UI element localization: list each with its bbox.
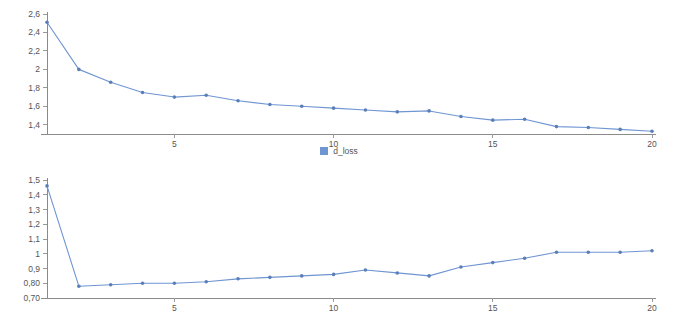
series-line-g_loss <box>47 186 652 286</box>
d-loss-plot-area: 1,41,61,822,22,42,65101520 <box>0 0 678 163</box>
data-point <box>555 125 559 129</box>
data-point <box>491 261 495 265</box>
x-tick-label: 5 <box>172 303 177 313</box>
y-tick-label: 2,4 <box>28 27 40 37</box>
y-tick-label: 1,6 <box>28 101 40 111</box>
data-point <box>268 103 272 107</box>
x-tick-label: 15 <box>488 303 498 313</box>
chart-g-loss: 0,700,800,911,11,21,31,41,55101520 g_los… <box>0 163 678 327</box>
g-loss-plot-area: 0,700,800,911,11,21,31,41,55101520 <box>0 163 678 327</box>
y-tick-label: 1,8 <box>28 83 40 93</box>
y-tick-label: 0,70 <box>23 293 40 303</box>
y-tick-label: 2,6 <box>28 9 40 19</box>
data-point <box>332 106 336 110</box>
y-tick-label: 1,4 <box>28 120 40 130</box>
y-tick-label: 0,9 <box>28 264 40 274</box>
legend-swatch-d-loss <box>320 147 328 155</box>
data-point <box>523 256 527 260</box>
data-point <box>268 276 272 280</box>
data-point <box>45 21 49 25</box>
data-point <box>332 273 336 277</box>
y-tick-label: 2,2 <box>28 46 40 56</box>
data-point <box>236 99 240 103</box>
data-point <box>300 105 304 109</box>
data-point <box>109 283 113 287</box>
data-point <box>300 274 304 278</box>
data-point <box>364 108 368 112</box>
y-tick-label: 1,5 <box>28 175 40 185</box>
data-point <box>204 280 208 284</box>
series-line-d_loss <box>47 22 652 131</box>
data-point <box>523 117 527 121</box>
data-point <box>395 110 399 114</box>
y-tick-label: 1,1 <box>28 234 40 244</box>
chart-d-loss: 1,41,61,822,22,42,65101520 d_loss <box>0 0 678 163</box>
data-point <box>650 249 654 253</box>
data-point <box>491 118 495 122</box>
data-point <box>618 250 622 254</box>
data-point <box>109 81 113 85</box>
y-tick-label: 1,3 <box>28 205 40 215</box>
data-point <box>395 271 399 275</box>
y-tick-label: 1,2 <box>28 219 40 229</box>
data-point <box>77 284 81 288</box>
data-point <box>618 128 622 132</box>
legend-d-loss: d_loss <box>0 146 678 156</box>
y-tick-label: 1,4 <box>28 190 40 200</box>
data-point <box>555 250 559 254</box>
data-point <box>427 274 431 278</box>
data-point <box>77 68 81 72</box>
data-point <box>364 268 368 272</box>
x-tick-label: 20 <box>647 303 657 313</box>
y-tick-label: 2 <box>35 64 40 74</box>
y-tick-label: 0,80 <box>23 278 40 288</box>
y-tick-label: 1 <box>35 249 40 259</box>
data-point <box>587 250 591 254</box>
legend-label-d-loss: d_loss <box>333 146 358 156</box>
data-point <box>459 115 463 119</box>
x-tick-label: 10 <box>329 303 339 313</box>
data-point <box>45 184 49 188</box>
data-point <box>173 281 177 285</box>
data-point <box>204 93 208 97</box>
data-point <box>650 129 654 133</box>
data-point <box>587 126 591 130</box>
data-point <box>427 109 431 113</box>
data-point <box>459 265 463 269</box>
data-point <box>141 91 145 95</box>
data-point <box>236 277 240 281</box>
data-point <box>173 95 177 99</box>
data-point <box>141 281 145 285</box>
